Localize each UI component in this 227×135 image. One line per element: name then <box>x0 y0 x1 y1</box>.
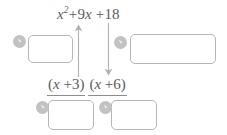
factor-two-close-paren: ) <box>121 76 126 92</box>
worksheet-canvas: x2+9x +18 (x +3) (x +6) <box>0 0 227 135</box>
factor-two-variable: x <box>94 76 101 92</box>
factor-one-close-paren: ) <box>79 76 84 92</box>
arrow-pointer-badge-icon[interactable] <box>114 36 127 49</box>
quadratic-middle-variable: x <box>85 6 92 22</box>
factor-two-operator: + <box>105 76 113 92</box>
factor-two-group: (x +6) <box>88 76 126 96</box>
arrow-pointer-badge-icon[interactable] <box>13 35 26 48</box>
factor-one-group: (x +3) <box>47 76 85 96</box>
quadratic-variable: x <box>57 6 64 22</box>
factor-two-underline <box>88 95 126 96</box>
quadratic-expression: x2+9x +18 <box>57 6 120 23</box>
factor-one-underline <box>47 95 85 96</box>
factor-one-variable: x <box>53 76 60 92</box>
quadratic-middle-coefficient: 9 <box>77 6 85 22</box>
answer-box-bottom-two[interactable] <box>111 100 157 130</box>
answer-box-right[interactable] <box>130 34 216 64</box>
factored-form: (x +3) (x +6) <box>47 76 127 96</box>
arrow-down-icon <box>101 23 116 77</box>
factor-two: (x +6) <box>88 76 126 93</box>
answer-box-left[interactable] <box>28 35 73 63</box>
factor-one: (x +3) <box>47 76 85 93</box>
arrow-pointer-badge-icon[interactable] <box>99 101 112 114</box>
arrow-up-icon <box>71 23 86 77</box>
answer-box-bottom-one[interactable] <box>48 100 94 130</box>
arrow-pointer-badge-icon[interactable] <box>36 101 49 114</box>
factor-one-operator: + <box>63 76 71 92</box>
quadratic-constant: 18 <box>104 6 119 22</box>
factor-two-number: 6 <box>113 76 121 92</box>
